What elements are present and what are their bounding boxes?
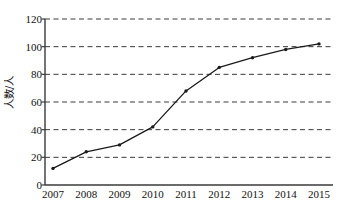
y-axis-tick-label: 100 (26, 41, 43, 52)
line-chart: 人数/人 020406080100120 2007200820092010201… (0, 0, 341, 205)
x-axis-tick-label: 2014 (275, 188, 297, 200)
y-axis-tick-labels: 020406080100120 (12, 0, 42, 205)
data-point-marker (284, 48, 287, 51)
plot-area (45, 19, 333, 185)
plot-svg (45, 19, 333, 185)
x-axis-tick-labels: 200720082009201020112012201320142015 (45, 188, 333, 205)
y-axis-tick-label: 60 (31, 97, 42, 108)
x-axis-tick-label: 2008 (75, 188, 97, 200)
x-axis-tick-label: 2015 (308, 188, 330, 200)
x-axis-tick-label: 2011 (175, 188, 197, 200)
data-line (53, 44, 319, 168)
data-point-marker (85, 150, 88, 153)
data-point-marker (251, 56, 254, 59)
y-axis-tick-label: 80 (31, 69, 42, 80)
data-point-marker (118, 143, 121, 146)
y-axis-tick-label: 40 (31, 124, 42, 135)
data-point-marker (317, 42, 320, 45)
data-point-marker (184, 89, 187, 92)
data-point-marker (218, 66, 221, 69)
data-point-marker (151, 125, 154, 128)
x-axis-tick-label: 2013 (242, 188, 264, 200)
y-axis-tick-label: 120 (26, 14, 43, 25)
x-axis-tick-label: 2010 (142, 188, 164, 200)
x-axis-tick-label: 2009 (109, 188, 131, 200)
x-axis-tick-label: 2012 (208, 188, 230, 200)
x-axis-tick-label: 2007 (42, 188, 64, 200)
y-axis-tick-label: 20 (31, 152, 42, 163)
data-point-marker (51, 167, 54, 170)
